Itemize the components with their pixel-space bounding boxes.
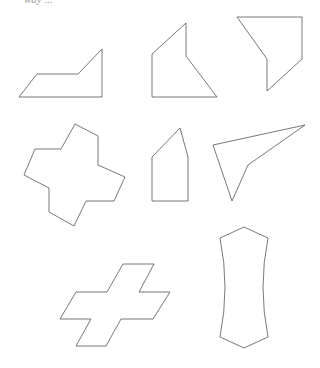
shapes-figure — [0, 0, 320, 368]
shape-arrowhead — [213, 125, 305, 201]
shape-skewed-cross — [60, 264, 170, 346]
shape-rotated-cross — [24, 124, 125, 226]
shape-pencil — [152, 128, 188, 201]
shape-bone — [220, 227, 268, 348]
shape-trapezoid — [19, 49, 102, 97]
shape-shield — [237, 17, 302, 91]
shape-house — [152, 23, 217, 97]
